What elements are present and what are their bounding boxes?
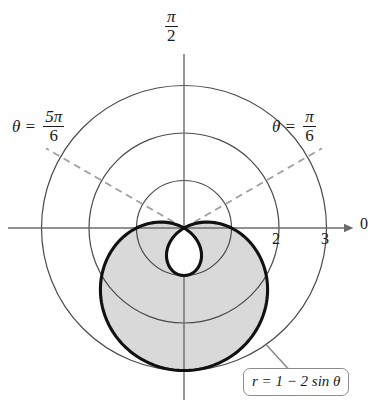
radial-tick-label-3: 3: [321, 231, 329, 247]
angle-label-right-numerator: π: [303, 108, 316, 127]
vertical-axis-label-numerator: π: [165, 8, 178, 27]
angle-ray-pi-over-6: [184, 148, 322, 228]
angle-label-pi-over-6: θ = π 6: [272, 108, 316, 145]
angle-label-right-denominator: 6: [303, 127, 316, 145]
angle-label-left-denominator: 6: [43, 127, 64, 145]
polar-plot-canvas: [0, 0, 380, 414]
angle-label-left-lead: θ =: [12, 118, 39, 135]
angle-ray-5pi-over-6: [46, 148, 184, 228]
equation-text: r = 1 − 2 sin θ: [252, 373, 340, 389]
radial-tick-label-2: 2: [272, 231, 280, 247]
angle-label-5pi-over-6: θ = 5π 6: [12, 108, 64, 145]
vertical-axis-label: π 2: [165, 8, 178, 45]
angle-label-right-lead: θ =: [272, 118, 299, 135]
polar-axis-label: 0: [360, 216, 368, 232]
polar-plot-figure: π 2 θ = 5π 6 θ = π 6 2 3 0 r = 1 − 2 sin…: [0, 0, 380, 414]
equation-callout-box: r = 1 − 2 sin θ: [243, 368, 349, 396]
angle-label-left-numerator: 5π: [43, 108, 64, 127]
vertical-axis-label-denominator: 2: [165, 27, 178, 45]
